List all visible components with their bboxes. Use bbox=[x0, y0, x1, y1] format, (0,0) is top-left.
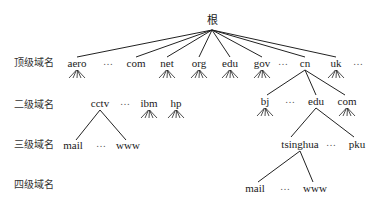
node-uk: uk bbox=[331, 57, 343, 69]
node-www-cctv: www bbox=[116, 139, 140, 151]
level-label-fourth: 四级域名 bbox=[14, 178, 54, 190]
level-label-top: 顶级域名 bbox=[14, 56, 54, 68]
ellipsis: … bbox=[120, 96, 130, 107]
node-gov: gov bbox=[254, 57, 271, 69]
node-com: com bbox=[127, 57, 146, 69]
dns-tree-diagram: 根 顶级域名 二级域名 三级域名 四级域名 aero … com net org… bbox=[0, 0, 373, 208]
node-net: net bbox=[160, 57, 173, 69]
ellipsis: … bbox=[326, 137, 336, 148]
node-tsinghua: tsinghua bbox=[281, 138, 318, 150]
node-ibm: ibm bbox=[140, 97, 158, 109]
ellipsis: … bbox=[280, 181, 290, 192]
node-aero: aero bbox=[68, 57, 87, 69]
node-hp: hp bbox=[171, 97, 183, 109]
ellipsis: … bbox=[96, 138, 106, 149]
node-cctv: cctv bbox=[91, 97, 110, 109]
ellipsis: … bbox=[103, 56, 113, 67]
node-cn: cn bbox=[300, 57, 311, 69]
node-com-cn: com bbox=[338, 95, 357, 107]
node-mail-cctv: mail bbox=[63, 139, 83, 151]
node-pku: pku bbox=[349, 138, 366, 150]
ellipsis: … bbox=[278, 56, 288, 67]
node-mail-tsinghua: mail bbox=[245, 182, 265, 194]
root-node: 根 bbox=[207, 13, 218, 27]
node-www-tsinghua: www bbox=[303, 182, 327, 194]
node-bj: bj bbox=[261, 95, 270, 107]
ellipsis: … bbox=[285, 94, 295, 105]
subtree-fans bbox=[69, 70, 355, 118]
node-edu: edu bbox=[222, 57, 238, 69]
node-org: org bbox=[192, 57, 207, 69]
node-edu-cn: edu bbox=[308, 95, 324, 107]
ellipsis: … bbox=[353, 56, 363, 67]
level-label-second: 二级域名 bbox=[14, 98, 54, 110]
level-label-third: 三级域名 bbox=[14, 138, 54, 150]
